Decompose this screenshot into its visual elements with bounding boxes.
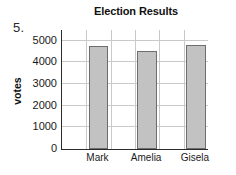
bar-mark — [89, 46, 108, 149]
y-tick-label: 3000 — [5, 78, 57, 89]
y-axis-tick-labels: 010002000300040005000 — [0, 0, 61, 175]
bars-group — [62, 30, 208, 149]
y-tick-label: 1000 — [5, 121, 57, 132]
bar-gisela — [186, 45, 205, 149]
plot-area — [61, 30, 208, 150]
y-tick-label: 2000 — [5, 100, 57, 111]
y-tick-label: 5000 — [5, 35, 57, 46]
x-tick-label: Gisela — [171, 152, 220, 164]
bar-amelia — [137, 51, 156, 149]
y-tick-label: 4000 — [5, 56, 57, 67]
chart-title: Election Results — [62, 5, 210, 17]
x-tick-label: Amelia — [122, 152, 171, 164]
x-tick-label: Mark — [73, 152, 122, 164]
x-axis-tick-labels: MarkAmeliaGisela — [61, 152, 208, 170]
y-tick-label: 0 — [5, 143, 57, 154]
